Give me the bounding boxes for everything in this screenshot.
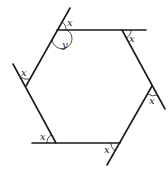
- label-bottom-right-exterior: x: [104, 144, 110, 155]
- label-right-exterior: x: [149, 95, 155, 106]
- label-top-left-interior: y: [61, 39, 68, 50]
- label-top-left-exterior: x: [67, 17, 73, 28]
- arc-top-left-exterior: [62, 22, 66, 30]
- label-left-exterior: x: [21, 67, 27, 78]
- label-bottom-left-exterior: x: [40, 131, 46, 142]
- side-bottom-right: [107, 86, 152, 165]
- arc-bottom-left-exterior: [47, 135, 51, 143]
- hexagon-exterior-angles-diagram: x y x x x x x: [0, 0, 168, 173]
- side-bottom-left: [13, 64, 56, 143]
- label-top-right-exterior: x: [129, 33, 135, 44]
